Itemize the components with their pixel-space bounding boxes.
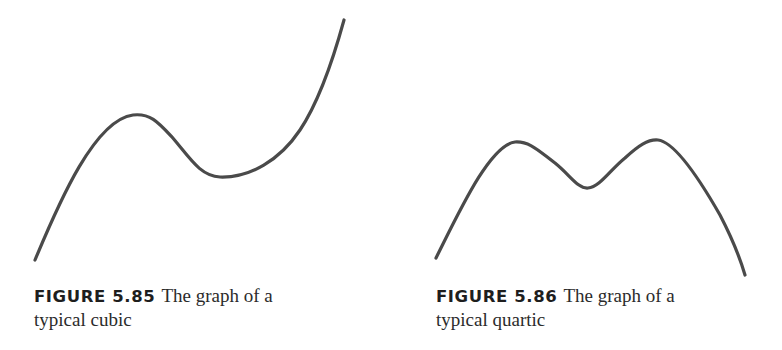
figure-caption-quartic: FIGURE 5.86The graph of a typical quarti… bbox=[436, 284, 766, 331]
caption-text-line2: typical quartic bbox=[436, 309, 545, 330]
figure-label: FIGURE 5.85 bbox=[34, 287, 155, 306]
caption-text-line2: typical cubic bbox=[34, 309, 132, 330]
caption-text: The graph of a bbox=[563, 285, 674, 306]
cubic-curve bbox=[35, 20, 344, 260]
figure-caption-cubic: FIGURE 5.85The graph of a typical cubic bbox=[34, 284, 364, 331]
caption-text: The graph of a bbox=[161, 285, 272, 306]
quartic-curve bbox=[436, 140, 745, 275]
figure-label: FIGURE 5.86 bbox=[436, 287, 557, 306]
